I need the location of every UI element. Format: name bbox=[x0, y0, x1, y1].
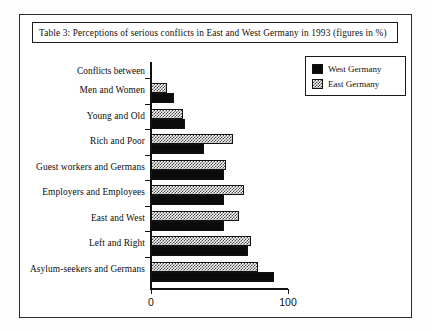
x-axis-tick bbox=[288, 289, 289, 294]
bar-west-germany bbox=[151, 221, 224, 231]
category-label-wrap: Rich and Poor bbox=[0, 136, 150, 148]
y-axis-tick bbox=[145, 257, 151, 258]
category-label: Left and Right bbox=[7, 238, 150, 248]
x-axis-line bbox=[150, 288, 288, 290]
category-label-wrap: Employers and Employees bbox=[0, 187, 150, 199]
category-label: Rich and Poor bbox=[7, 136, 150, 146]
bar-west-germany bbox=[151, 170, 224, 180]
figure-container: Table 3: Perceptions of serious conflict… bbox=[0, 0, 431, 333]
x-axis-tick-label: 100 bbox=[279, 296, 297, 308]
bar-east-germany bbox=[151, 160, 226, 170]
category-label: Men and Women bbox=[7, 85, 150, 95]
bar-west-germany bbox=[151, 144, 204, 154]
category-label-wrap: Young and Old bbox=[0, 111, 150, 123]
category-label-wrap: Guest workers and Germans bbox=[0, 162, 150, 174]
category-label-wrap: Asylum-seekers and Germans bbox=[0, 264, 150, 276]
category-label: Young and Old bbox=[7, 111, 150, 121]
x-axis-tick-label: 0 bbox=[148, 296, 154, 308]
bar-west-germany bbox=[151, 195, 224, 205]
category-label-wrap: Left and Right bbox=[0, 238, 150, 250]
bar-west-germany bbox=[151, 93, 174, 103]
bar-east-germany bbox=[151, 236, 251, 246]
bar-west-germany bbox=[151, 119, 185, 129]
bar-east-germany bbox=[151, 185, 244, 195]
category-label: Asylum-seekers and Germans bbox=[7, 264, 150, 274]
plot-area: Conflicts between 0100 Men and WomenYoun… bbox=[0, 0, 431, 333]
category-label: Guest workers and Germans bbox=[7, 162, 150, 172]
bar-west-germany bbox=[151, 246, 248, 256]
y-axis-tick bbox=[145, 78, 151, 79]
y-axis-tick bbox=[145, 180, 151, 181]
category-label-wrap: East and West bbox=[0, 213, 150, 225]
bar-east-germany bbox=[151, 83, 167, 93]
category-label: Employers and Employees bbox=[7, 187, 150, 197]
y-axis-tick bbox=[145, 129, 151, 130]
bar-east-germany bbox=[151, 211, 239, 221]
bar-east-germany bbox=[151, 109, 183, 119]
bar-east-germany bbox=[151, 262, 258, 272]
x-axis-tick bbox=[151, 289, 152, 294]
bar-east-germany bbox=[151, 134, 233, 144]
y-axis-tick bbox=[145, 155, 151, 156]
category-label: East and West bbox=[7, 213, 150, 223]
y-axis-tick bbox=[145, 231, 151, 232]
y-axis-tick bbox=[145, 206, 151, 207]
bar-west-germany bbox=[151, 272, 274, 282]
category-label-wrap: Men and Women bbox=[0, 85, 150, 97]
y-axis-title: Conflicts between bbox=[0, 66, 150, 76]
y-axis-tick bbox=[145, 104, 151, 105]
